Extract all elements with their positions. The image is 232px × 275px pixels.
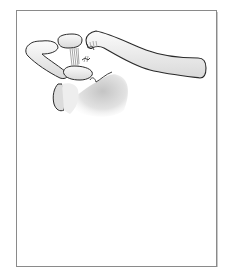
acromion (63, 66, 92, 80)
torn-ligaments (70, 48, 90, 66)
glenoid (53, 83, 78, 114)
clavicle (86, 31, 206, 78)
acromion-tip (58, 34, 82, 48)
shoulder-illustration (0, 0, 232, 275)
